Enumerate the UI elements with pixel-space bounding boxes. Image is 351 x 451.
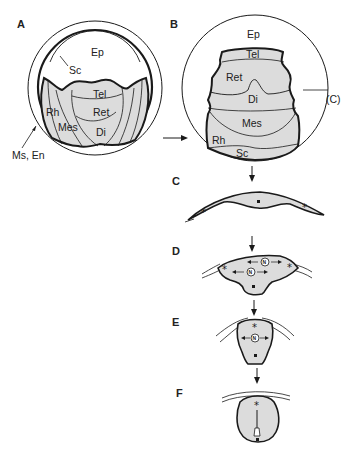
arrow-e-to-f xyxy=(254,368,260,384)
panel-a: A Ep Sc Tel Ret Rh Mes Di Ms, En xyxy=(12,18,162,161)
label-ret: Ret xyxy=(93,106,109,118)
label-sc: Sc xyxy=(236,147,248,159)
panel-b: B Ep Tel Ret Di Mes Rh Sc (C) xyxy=(170,15,341,161)
arrow-d-to-e xyxy=(251,300,257,316)
sc-pointer-line xyxy=(60,56,68,66)
arrow-down-icon xyxy=(251,309,257,316)
panel-b-label: B xyxy=(170,18,178,30)
circled-marker-label: N xyxy=(263,259,267,265)
label-ms-en: Ms, En xyxy=(12,149,45,161)
ectoderm-right-2 xyxy=(293,270,312,278)
neural-fold-section xyxy=(218,256,298,295)
arrow-down-icon xyxy=(249,175,255,182)
label-mes: Mes xyxy=(242,117,262,129)
label-sc: Sc xyxy=(69,64,81,76)
square-marker xyxy=(252,285,255,288)
embryo-development-diagram: A Ep Sc Tel Ret Rh Mes Di Ms, En xyxy=(0,0,351,451)
panel-d: D * * N N xyxy=(172,245,312,295)
label-rh: Rh xyxy=(46,106,60,118)
square-marker xyxy=(256,438,259,441)
panel-e: E * N xyxy=(172,316,294,364)
label-ep: Ep xyxy=(91,46,104,58)
ectoderm-left-2 xyxy=(202,270,220,278)
panel-c: C * * xyxy=(172,175,324,222)
arrow-right-icon xyxy=(181,135,188,141)
arrow-down-icon xyxy=(249,245,255,252)
star-marker-left: * xyxy=(222,264,227,275)
panel-d-label: D xyxy=(172,245,180,257)
label-tel: Tel xyxy=(246,48,259,60)
star-marker: * xyxy=(252,322,257,333)
arrow-b-to-c xyxy=(249,166,255,182)
label-di: Di xyxy=(96,126,106,138)
panel-e-label: E xyxy=(172,316,179,328)
arrow-c-to-d xyxy=(249,236,255,252)
ectoderm-left-1 xyxy=(202,264,220,274)
label-mes: Mes xyxy=(58,121,78,133)
panel-f: F * xyxy=(176,387,290,442)
label-tel: Tel xyxy=(93,88,106,100)
star-marker-left: * xyxy=(201,207,206,218)
label-section-c: (C) xyxy=(326,93,341,105)
label-ret: Ret xyxy=(226,71,242,83)
panel-a-label: A xyxy=(17,18,25,30)
label-rh: Rh xyxy=(212,134,226,146)
circled-marker-label: N xyxy=(249,269,253,275)
star-marker: * xyxy=(254,400,259,411)
ms-en-arrowhead-icon xyxy=(32,126,36,131)
arrow-down-icon xyxy=(254,377,260,384)
panel-f-label: F xyxy=(176,387,183,399)
circled-marker-label: N xyxy=(253,335,257,341)
square-marker xyxy=(254,354,257,357)
label-di: Di xyxy=(248,93,258,105)
arrow-a-to-b xyxy=(163,135,188,141)
lumen-wedge xyxy=(254,428,260,436)
panel-c-label: C xyxy=(172,175,180,187)
label-ep: Ep xyxy=(247,28,260,40)
star-marker-right: * xyxy=(302,202,307,213)
star-marker-right: * xyxy=(287,262,292,273)
square-marker xyxy=(257,200,260,203)
